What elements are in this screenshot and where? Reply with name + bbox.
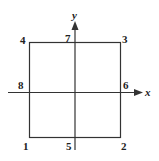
node-label-6: 6: [123, 80, 129, 91]
node-label-7: 7: [65, 33, 71, 44]
node-label-3: 3: [122, 34, 128, 45]
node-label-1: 1: [23, 141, 29, 152]
x-axis-label: x: [145, 87, 151, 98]
node-label-5: 5: [66, 141, 72, 152]
node-label-2: 2: [121, 141, 127, 152]
x-axis-arrow-icon: [134, 89, 143, 96]
y-axis-label: y: [72, 10, 77, 21]
node-label-4: 4: [20, 35, 26, 46]
y-axis-arrow-icon: [72, 21, 79, 30]
node-label-8: 8: [18, 80, 24, 91]
